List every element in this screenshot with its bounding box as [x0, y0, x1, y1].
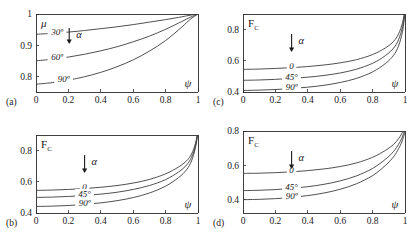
y-tick-label: 0.8 [20, 146, 32, 156]
x-tick-label: 0.4 [95, 216, 107, 226]
x-tick-label: 0.8 [367, 95, 379, 105]
x-axis-label: ψ [392, 77, 399, 89]
y-tick-label: 0.4 [227, 195, 239, 205]
alpha-annotation-label: α [299, 35, 305, 46]
x-tick-label: 0 [241, 216, 246, 226]
y-tick-label: 0.6 [20, 177, 32, 187]
x-tick-label: 0.6 [127, 95, 139, 105]
y-tick-label: 0.8 [227, 25, 239, 35]
figure-container: 00.20.40.60.810.80.91μψ30º60º90ºα(a)00.2… [0, 0, 414, 242]
alpha-annotation-label: α [92, 156, 98, 167]
y-tick-label: 0.4 [20, 208, 32, 218]
x-tick-label: 1 [196, 216, 201, 226]
axes-frame [243, 131, 405, 213]
x-tick-label: 0.2 [269, 216, 281, 226]
curve-label-45: 45° [285, 72, 298, 82]
curve-label-60: 60º [51, 52, 63, 62]
x-axis-label: ψ [392, 198, 399, 210]
curve-45 [36, 131, 198, 197]
y-tick-label: 0.8 [20, 72, 32, 82]
y-tick-label: 0.6 [227, 56, 239, 66]
x-tick-label: 0.2 [269, 95, 281, 105]
x-tick-label: 0 [34, 216, 39, 226]
x-tick-label: 0.6 [334, 95, 346, 105]
x-axis-label: ψ [185, 77, 192, 89]
x-tick-label: 0.8 [367, 216, 379, 226]
x-tick-label: 1 [403, 216, 408, 226]
x-tick-label: 1 [196, 95, 201, 105]
alpha-arrow-head [67, 40, 72, 45]
curve-label-30: 30º [50, 27, 63, 37]
x-tick-label: 0.2 [62, 95, 74, 105]
x-tick-label: 0.8 [160, 216, 172, 226]
x-tick-label: 0.8 [160, 95, 172, 105]
curve-label-90: 90º [286, 191, 298, 201]
alpha-annotation-label: α [299, 152, 305, 163]
y-tick-label: 0.8 [227, 126, 239, 136]
panel-tag: (a) [6, 97, 17, 108]
y-tick-label: 0.4 [227, 87, 239, 97]
curve-label-90: 90º [286, 82, 298, 92]
curve-90 [243, 132, 405, 200]
y-tick-label: 0.6 [227, 161, 239, 171]
curve-label-90: 90º [58, 74, 70, 84]
y-axis-label: FC [248, 17, 259, 32]
curve-45 [243, 11, 405, 80]
y-axis-label: FC [41, 138, 52, 153]
y-axis-label: FC [248, 134, 259, 149]
x-tick-label: 0.6 [127, 216, 139, 226]
y-tick-label: 0.9 [20, 41, 32, 51]
y-tick-label: 1 [27, 9, 32, 19]
curve-label-0: 0 [289, 61, 294, 71]
panel-tag: (c) [213, 97, 224, 108]
curve-0 [243, 126, 405, 173]
y-axis-label: μ [40, 17, 47, 29]
x-tick-label: 0.4 [302, 95, 314, 105]
x-tick-label: 1 [403, 95, 408, 105]
x-tick-label: 0.6 [334, 216, 346, 226]
x-tick-label: 0 [34, 95, 39, 105]
x-axis-label: ψ [185, 198, 192, 210]
x-tick-label: 0.2 [62, 216, 74, 226]
plot-panel-a: 00.20.40.60.810.80.91μψ30º60º90ºα(a) [0, 0, 207, 121]
axes-frame [36, 135, 198, 213]
x-tick-label: 0.4 [95, 95, 107, 105]
panel-tag: (d) [213, 218, 224, 229]
plot-panel-d: 00.20.40.60.810.40.60.8FCψ045°90ºα(d) [207, 121, 414, 242]
plot-panel-c: 00.20.40.60.810.40.60.8FCψ045°90ºα(c) [207, 0, 414, 121]
alpha-arrow-head [289, 48, 294, 53]
axes-frame [243, 14, 405, 92]
curve-0 [243, 9, 405, 69]
curve-90 [243, 13, 405, 90]
x-tick-label: 0 [241, 95, 246, 105]
alpha-annotation-label: α [76, 29, 82, 40]
curve-45 [243, 129, 405, 190]
x-tick-label: 0.4 [302, 216, 314, 226]
alpha-arrow-head [82, 169, 87, 174]
plot-panel-b: 00.20.40.60.810.40.60.8FCψ045°90ºα(b) [0, 121, 207, 242]
curve-label-90: 90º [79, 198, 91, 208]
panel-tag: (b) [6, 218, 17, 229]
curve-90 [36, 132, 198, 207]
